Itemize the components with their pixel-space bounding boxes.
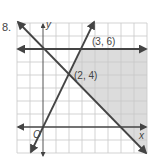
y-axis-label: y: [45, 19, 52, 30]
x-axis-label: x: [138, 130, 145, 141]
point-label-2-4: (2, 4): [74, 70, 97, 81]
point-label-3-6: (3, 6): [92, 36, 115, 47]
coordinate-graph: y x O (3, 6) (2, 4): [0, 0, 154, 165]
origin-label: O: [33, 129, 41, 140]
